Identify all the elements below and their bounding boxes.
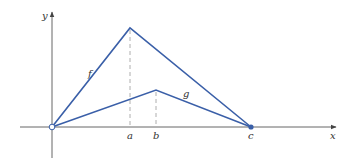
origin-open-circle (49, 124, 55, 130)
curve-f (52, 28, 251, 127)
tick-label-c: c (248, 130, 254, 141)
tick-label-a: a (127, 130, 133, 141)
graph-canvas: y x f g a b c (0, 0, 350, 167)
curve-f-label: f (87, 68, 94, 79)
curve-g-label: g (183, 88, 189, 99)
tick-label-b: b (153, 130, 159, 141)
y-axis-label: y (41, 10, 48, 21)
point-c-filled-circle (248, 124, 253, 129)
x-axis-label: x (330, 130, 336, 141)
curve-g (52, 90, 251, 127)
